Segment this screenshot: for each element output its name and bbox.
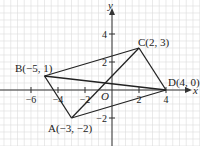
point-label-c: C(2, 3) xyxy=(138,36,170,49)
point-label-a: A(−3, −2) xyxy=(48,122,93,135)
y-tick-label: −2 xyxy=(96,113,107,124)
coordinate-diagram: x y O −6−4−22442−2 A(−3, −2) B(−5, 1) C(… xyxy=(0,0,200,146)
origin-label: O xyxy=(101,90,109,102)
point-labels: A(−3, −2) B(−5, 1) C(2, 3) D(4, 0) xyxy=(15,36,200,135)
point-label-b: B(−5, 1) xyxy=(15,62,53,75)
x-tick-label: −6 xyxy=(26,94,37,105)
y-tick-label: 4 xyxy=(102,29,107,40)
x-tick-label: 4 xyxy=(164,94,169,105)
point-label-d: D(4, 0) xyxy=(168,76,200,89)
x-tick-label: 2 xyxy=(137,94,142,105)
y-axis-label: y xyxy=(107,0,113,11)
